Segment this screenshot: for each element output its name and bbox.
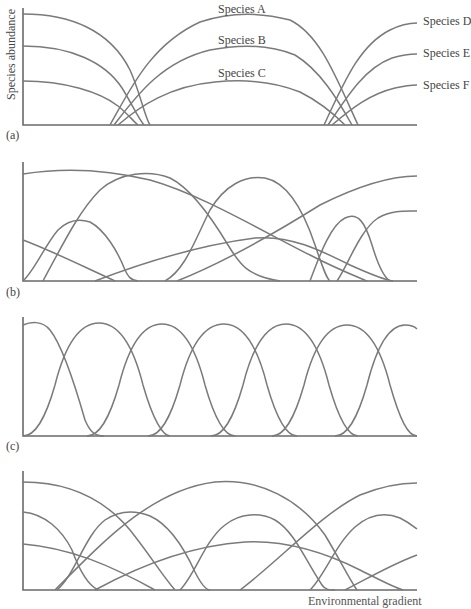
curve-b7 [177,176,417,281]
panel-label-b: (b) [6,285,20,300]
curve-c6 [272,325,417,436]
curve-d7 [180,515,335,590]
label-species-f: Species F [423,78,469,93]
label-species-d: Species D [423,14,471,29]
curve-c1 [23,323,104,436]
panel-b-axes [23,162,417,281]
curve-b1 [23,170,367,281]
panel-b [23,162,417,281]
curve-c7 [335,325,417,436]
curve-d2 [23,512,98,590]
curve-c2 [23,323,170,436]
panel-c [23,317,417,436]
curve-c3 [87,324,235,436]
label-species-e: Species E [423,46,470,61]
x-axis-label: Environmental gradient [308,594,422,609]
curve-left-high [23,14,150,125]
curve-d1 [23,482,175,590]
panel-label-c: (c) [6,439,19,454]
curve-b8 [310,216,390,281]
panel-label-a: (a) [6,128,19,143]
panel-d [23,471,417,590]
curve-d5 [55,482,357,590]
curve-species-c [118,81,345,125]
label-species-c: Species C [218,66,266,81]
panel-c-axes [23,317,417,436]
y-axis-label: Species abundance [4,9,19,100]
curve-b4 [23,240,115,281]
label-species-b: Species B [218,33,266,48]
curve-c5 [211,324,358,436]
curve-c4 [148,324,297,436]
curve-d10 [345,555,417,590]
curve-d8 [240,483,417,590]
curve-b9 [337,211,417,281]
label-species-a: Species A [218,2,266,17]
curve-species-f [332,85,417,125]
curve-species-b [114,46,352,125]
curve-left-low [23,81,138,125]
curve-d9 [310,515,417,590]
